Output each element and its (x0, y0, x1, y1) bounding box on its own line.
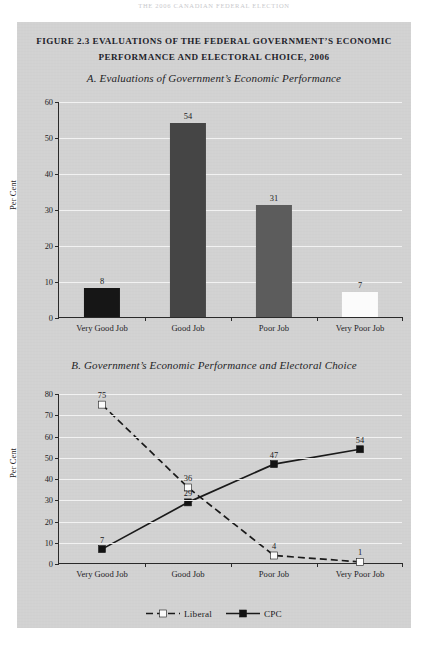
chart-a-bar-value-label: 54 (184, 112, 192, 121)
chart-b-data-point-label: 75 (98, 391, 106, 400)
legend-swatch-liberal (146, 608, 180, 619)
chart-b-data-point-label: 54 (356, 436, 364, 445)
chart-b-y-tick-label: 10 (45, 538, 53, 547)
chart-a-y-tick-label: 30 (45, 206, 53, 215)
chart-a-y-axis-label: Per Cent (8, 180, 18, 210)
chart-a-y-tick-label: 50 (45, 134, 53, 143)
chart-a-y-tick-label: 0 (49, 314, 53, 323)
chart-b-x-tick-label: Very Poor Job (336, 569, 385, 579)
chart-b-series-line-cpc (102, 449, 360, 549)
chart-a-x-axis-end-tick (402, 317, 403, 321)
chart-a-bar: 31 (256, 205, 292, 317)
chart-b-y-tick-mark (55, 437, 59, 438)
chart-panel-a: Per Cent 0102030405060Very Good JobGood … (17, 94, 411, 352)
chart-b-y-axis-label: Per Cent (8, 448, 18, 478)
panel-b-title: B. Government’s Economic Performance and… (17, 359, 411, 371)
chart-a-bar-value-label: 8 (100, 277, 104, 286)
chart-b-data-point-label: 7 (100, 536, 104, 545)
chart-b-y-tick-mark (55, 500, 59, 501)
chart-b-y-tick-label: 0 (49, 560, 53, 569)
chart-b-y-tick-label: 40 (45, 475, 53, 484)
chart-b-series-line-liberal (102, 405, 360, 562)
chart-a-y-tick-mark (55, 102, 59, 103)
chart-b-x-tick-label: Very Good Job (76, 569, 128, 579)
chart-b-data-point-marker (99, 546, 106, 553)
figure-title-line-2: PERFORMANCE AND ELECTORAL CHOICE, 2006 (17, 49, 411, 65)
chart-b-gridline (59, 543, 402, 544)
chart-b-gridline (59, 479, 402, 480)
chart-b-y-tick-label: 20 (45, 517, 53, 526)
chart-a-y-tick-mark (55, 138, 59, 139)
chart-a-x-tick-label: Very Good Job (76, 323, 128, 333)
chart-a-x-tick-label: Poor Job (259, 323, 289, 333)
chart-b-data-point-label: 29 (184, 489, 192, 498)
chart-b-data-point-label: 36 (184, 474, 192, 483)
chart-b-y-tick-mark (55, 522, 59, 523)
chart-a-gridline (59, 282, 402, 283)
chart-a-x-tick-mark (145, 317, 146, 321)
chart-a-bar-value-label: 31 (270, 194, 278, 203)
chart-b-data-point-marker (99, 401, 106, 408)
chart-a-gridline (59, 246, 402, 247)
chart-b-y-tick-mark (55, 543, 59, 544)
chart-b-y-tick-mark (55, 564, 59, 565)
chart-b-data-point-marker (357, 446, 364, 453)
chart-b-gridline (59, 437, 402, 438)
chart-b-gridline (59, 500, 402, 501)
chart-a-x-tick-label: Very Poor Job (336, 323, 385, 333)
chart-b-x-tick-mark (231, 563, 232, 567)
chart-b-y-tick-label: 70 (45, 411, 53, 420)
chart-a-y-tick-label: 20 (45, 242, 53, 251)
chart-a-x-tick-mark (231, 317, 232, 321)
chart-a-y-tick-mark (55, 318, 59, 319)
chart-b-data-point-label: 47 (270, 451, 278, 460)
chart-b-y-tick-label: 80 (45, 390, 53, 399)
chart-b-y-tick-mark (55, 394, 59, 395)
legend-label: CPC (264, 609, 282, 619)
chart-a-y-tick-mark (55, 174, 59, 175)
chart-a-x-tick-mark (317, 317, 318, 321)
chart-a-y-tick-mark (55, 246, 59, 247)
figure-title-line-1: FIGURE 2.3 EVALUATIONS OF THE FEDERAL GO… (17, 33, 411, 49)
chart-a-y-tick-mark (55, 282, 59, 283)
chart-b-x-tick-mark (145, 563, 146, 567)
chart-a-gridline (59, 174, 402, 175)
chart-a-gridline (59, 138, 402, 139)
chart-b-y-tick-mark (55, 479, 59, 480)
chart-a-bar: 8 (84, 288, 120, 317)
chart-b-data-point-marker (271, 461, 278, 468)
figure-panel: FIGURE 2.3 EVALUATIONS OF THE FEDERAL GO… (17, 22, 411, 628)
chart-b-legend: LiberalCPC (17, 608, 411, 619)
chart-b-data-point-marker (271, 552, 278, 559)
chart-a-bar: 7 (342, 292, 378, 317)
panel-a-title: A. Evaluations of Government’s Economic … (17, 72, 411, 84)
chart-b-x-tick-mark (317, 563, 318, 567)
chart-b-y-tick-mark (55, 415, 59, 416)
chart-b-gridline (59, 415, 402, 416)
chart-b-gridline (59, 458, 402, 459)
chart-b-data-point-label: 4 (272, 542, 276, 551)
chart-a-bar: 54 (170, 123, 206, 317)
chart-a-y-tick-label: 10 (45, 278, 53, 287)
chart-a-gridline (59, 210, 402, 211)
chart-a-y-tick-mark (55, 210, 59, 211)
chart-b-y-tick-mark (55, 458, 59, 459)
chart-b-plot-area: 01020304050607080Very Good JobGood JobPo… (58, 394, 402, 564)
chart-a-y-tick-label: 40 (45, 170, 53, 179)
chart-a-x-tick-label: Good Job (171, 323, 204, 333)
chart-b-y-tick-label: 50 (45, 453, 53, 462)
chart-panel-b: Per Cent 01020304050607080Very Good JobG… (17, 384, 411, 599)
chart-b-data-point-label: 1 (358, 548, 362, 557)
chart-b-data-point-marker (357, 558, 364, 565)
chart-b-gridline (59, 394, 402, 395)
chart-a-gridline (59, 102, 402, 103)
chart-b-x-axis-end-tick (402, 563, 403, 567)
legend-label: Liberal (184, 609, 212, 619)
chart-b-y-tick-label: 30 (45, 496, 53, 505)
chart-b-y-tick-label: 60 (45, 432, 53, 441)
legend-item-cpc[interactable]: CPC (226, 608, 282, 619)
chart-a-bar-value-label: 7 (358, 281, 362, 290)
chart-b-x-tick-label: Good Job (171, 569, 204, 579)
legend-item-liberal[interactable]: Liberal (146, 608, 212, 619)
page-running-header: THE 2006 CANADIAN FEDERAL ELECTION (0, 2, 428, 9)
